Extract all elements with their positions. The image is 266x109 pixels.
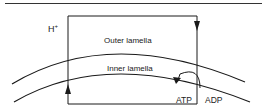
proton-label: H+ <box>48 23 59 34</box>
down-arrow-icon <box>194 21 200 31</box>
up-arrow-icon <box>65 84 71 94</box>
inner-lamella-label: Inner lamella <box>107 64 153 73</box>
adp-label: ADP <box>205 95 223 105</box>
outer-lamella-label: Outer lamella <box>104 36 152 45</box>
atp-label: ATP <box>176 95 192 105</box>
lamella-proton-diagram: H+ Outer lamella Inner lamella ATP ADP <box>0 0 266 109</box>
